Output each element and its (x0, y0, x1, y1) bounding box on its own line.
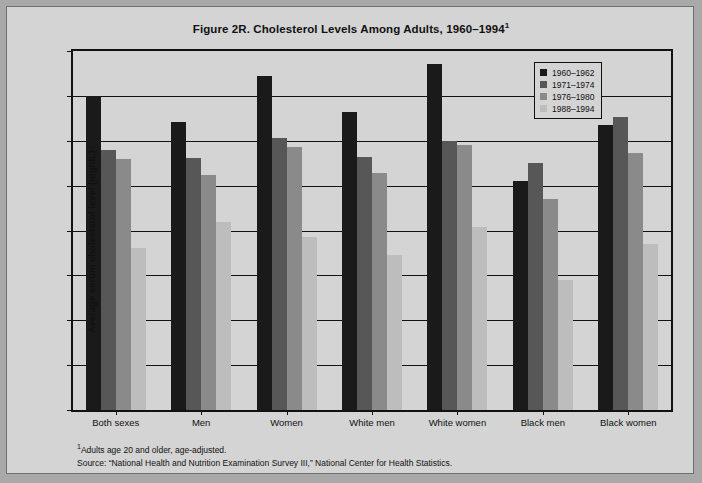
bar (272, 138, 287, 410)
x-tick-label: White men (349, 417, 394, 428)
bar (457, 145, 472, 410)
bar (186, 158, 201, 410)
legend-label: 1960–1962 (552, 68, 595, 78)
y-tick-mark (67, 51, 73, 52)
bar (342, 112, 357, 410)
legend-swatch-icon (540, 93, 547, 100)
legend-swatch-icon (540, 105, 547, 112)
y-tick-mark (67, 186, 73, 187)
bar (613, 117, 628, 410)
bar (201, 175, 216, 410)
bar (302, 237, 317, 410)
x-tick-mark (116, 410, 117, 415)
x-tick-mark (287, 410, 288, 415)
bar-group (257, 51, 317, 410)
bar-group (598, 51, 658, 410)
bar (628, 153, 643, 410)
bar (101, 150, 116, 410)
bar (598, 125, 613, 410)
x-tick-label: Both sexes (92, 417, 139, 428)
bar (372, 173, 387, 410)
bar-group (171, 51, 231, 410)
y-tick-mark (67, 365, 73, 366)
bar (257, 76, 272, 410)
legend-label: 1988–1994 (552, 104, 595, 114)
figure-container: Figure 2R. Cholesterol Levels Among Adul… (6, 6, 694, 474)
y-tick-mark (67, 410, 73, 411)
y-tick-mark (67, 320, 73, 321)
chart-title: Figure 2R. Cholesterol Levels Among Adul… (7, 21, 695, 35)
bar (558, 280, 573, 410)
y-tick-mark (67, 141, 73, 142)
legend-item: 1976–1980 (540, 91, 595, 102)
footnote-marker: 1 (77, 443, 81, 450)
bar (427, 64, 442, 410)
bar-group (427, 51, 487, 410)
y-tick-mark (67, 96, 73, 97)
bar (472, 227, 487, 410)
y-tick-mark (67, 275, 73, 276)
x-tick-mark (543, 410, 544, 415)
x-tick-label: Men (192, 417, 210, 428)
legend-item: 1971–1974 (540, 79, 595, 90)
bar (357, 157, 372, 410)
legend-swatch-icon (540, 81, 547, 88)
bar (643, 244, 658, 410)
y-tick-mark (67, 231, 73, 232)
x-tick-mark (457, 410, 458, 415)
bar (442, 141, 457, 410)
footnote-source: Source: “National Health and Nutrition E… (77, 458, 452, 468)
footnote-adults-note: 1Adults age 20 and older, age-adjusted. (77, 443, 226, 455)
bar (528, 163, 543, 410)
bar (287, 147, 302, 410)
x-tick-label: White women (429, 417, 487, 428)
legend-swatch-icon (540, 69, 547, 76)
chart-legend: 1960–19621971–19741976–19801988–1994 (534, 62, 602, 119)
x-tick-label: Black men (521, 417, 565, 428)
bar (543, 199, 558, 410)
bar (387, 255, 402, 410)
legend-item: 1960–1962 (540, 67, 595, 78)
x-tick-mark (372, 410, 373, 415)
x-tick-mark (628, 410, 629, 415)
legend-label: 1971–1974 (552, 80, 595, 90)
bar (131, 248, 146, 410)
legend-label: 1976–1980 (552, 92, 595, 102)
bar-group (342, 51, 402, 410)
legend-item: 1988–1994 (540, 103, 595, 114)
x-tick-label: Black women (600, 417, 657, 428)
bar (171, 122, 186, 410)
bar (116, 159, 131, 410)
x-tick-label: Women (270, 417, 303, 428)
bar (216, 222, 231, 410)
x-tick-mark (201, 410, 202, 415)
bar (513, 181, 528, 410)
title-footnote-marker: 1 (505, 21, 510, 30)
y-axis-title: Average serum cholesterol level (mg/dL) (86, 52, 97, 432)
